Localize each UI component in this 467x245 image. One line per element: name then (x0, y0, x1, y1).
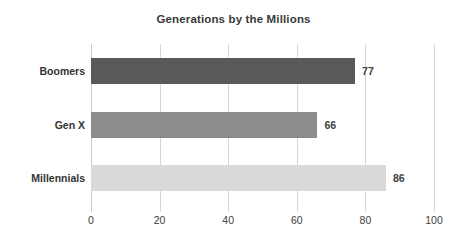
bar-row: 86 (91, 165, 434, 191)
chart-title: Generations by the Millions (0, 13, 467, 25)
category-axis: BoomersGen XMillennials (0, 44, 85, 205)
value-axis: 020406080100 (91, 214, 434, 232)
bar-value-label: 86 (386, 172, 405, 184)
xtick-label-60: 60 (291, 214, 303, 226)
bar-gen-x[interactable] (91, 112, 317, 138)
bar-value-label: 66 (317, 119, 336, 131)
plot-area: 776686 (91, 44, 434, 205)
bar-boomers[interactable] (91, 58, 355, 84)
category-label-boomers: Boomers (3, 65, 85, 77)
gridline-100 (434, 44, 435, 212)
xtick-label-100: 100 (425, 214, 443, 226)
bar-row: 77 (91, 58, 434, 84)
bar-chart: Generations by the Millions 776686 Boome… (0, 0, 467, 245)
xtick-label-0: 0 (88, 214, 94, 226)
xtick-label-20: 20 (154, 214, 166, 226)
bar-millennials[interactable] (91, 165, 386, 191)
bar-row: 66 (91, 112, 434, 138)
bar-value-label: 77 (355, 65, 374, 77)
category-label-gen-x: Gen X (3, 119, 85, 131)
category-label-millennials: Millennials (3, 172, 85, 184)
xtick-label-40: 40 (222, 214, 234, 226)
xtick-label-80: 80 (360, 214, 372, 226)
